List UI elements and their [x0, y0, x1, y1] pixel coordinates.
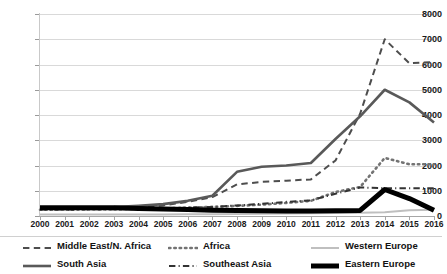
- x-axis-tick-mark: [40, 217, 41, 220]
- x-axis-tick-label: 2006: [175, 220, 201, 229]
- legend-swatch-icon: [310, 240, 340, 252]
- legend-item-southeast-asia[interactable]: Southeast Asia: [168, 256, 271, 272]
- x-axis-tick-mark: [336, 217, 337, 220]
- x-axis-tick-mark: [139, 217, 140, 220]
- legend-label: Western Europe: [345, 241, 418, 251]
- x-axis-tick-label: 2007: [199, 220, 225, 229]
- x-axis-tick-mark: [65, 217, 66, 220]
- x-axis-tick-mark: [89, 217, 90, 220]
- x-axis-tick-label: 2003: [101, 220, 127, 229]
- x-axis-tick-mark: [286, 217, 287, 220]
- series-line-eastern-europe: [40, 189, 434, 210]
- x-axis-tick-mark: [385, 217, 386, 220]
- legend-label: Middle East/N. Africa: [57, 241, 151, 251]
- x-axis-tick-label: 2014: [372, 220, 398, 229]
- x-axis-tick-label: 2012: [323, 220, 349, 229]
- legend-row: South AsiaSoutheast AsiaEastern Europe: [0, 256, 442, 272]
- x-axis-tick-mark: [262, 217, 263, 220]
- series-line-middle-east-n-africa: [40, 39, 434, 208]
- legend-label: Eastern Europe: [345, 259, 415, 269]
- legend-swatch-icon: [168, 258, 198, 270]
- x-axis-tick-mark: [409, 217, 410, 220]
- x-axis-tick-mark: [360, 217, 361, 220]
- x-axis-line: [39, 216, 435, 217]
- x-axis-tick-label: 2016: [421, 220, 447, 229]
- series-lines: [40, 14, 434, 216]
- x-axis-tick-label: 2009: [249, 220, 275, 229]
- legend-swatch-icon: [22, 258, 52, 270]
- legend-item-western-europe[interactable]: Western Europe: [310, 238, 418, 254]
- x-axis-tick-label: 2015: [396, 220, 422, 229]
- legend-item-africa[interactable]: Africa: [168, 238, 230, 254]
- legend-label: Southeast Asia: [203, 259, 271, 269]
- x-axis-tick-mark: [237, 217, 238, 220]
- legend-item-eastern-europe[interactable]: Eastern Europe: [310, 256, 415, 272]
- x-axis-tick-mark: [114, 217, 115, 220]
- legend-item-south-asia[interactable]: South Asia: [22, 256, 106, 272]
- legend-item-middle-east-n-africa[interactable]: Middle East/N. Africa: [22, 238, 151, 254]
- x-axis-tick-mark: [188, 217, 189, 220]
- legend-label: Africa: [203, 241, 230, 251]
- x-axis-tick-label: 2008: [224, 220, 250, 229]
- x-axis-tick-label: 2005: [150, 220, 176, 229]
- x-axis-tick-mark: [212, 217, 213, 220]
- x-axis-tick-mark: [434, 217, 435, 220]
- x-axis-tick-label: 2000: [27, 220, 53, 229]
- x-axis-tick-label: 2004: [126, 220, 152, 229]
- x-axis-tick-label: 2011: [298, 220, 324, 229]
- series-line-south-asia: [40, 90, 434, 208]
- series-line-africa: [40, 158, 434, 210]
- legend-swatch-icon: [168, 240, 198, 252]
- legend-row: Middle East/N. AfricaAfricaWestern Europ…: [0, 238, 442, 254]
- x-axis-tick-label: 2010: [273, 220, 299, 229]
- x-axis-tick-label: 2001: [52, 220, 78, 229]
- legend-label: South Asia: [57, 259, 106, 269]
- chart-legend: Middle East/N. AfricaAfricaWestern Europ…: [0, 236, 442, 274]
- legend-divider: [0, 236, 442, 237]
- plot-area: [40, 14, 434, 216]
- legend-swatch-icon: [22, 240, 52, 252]
- x-axis-tick-mark: [311, 217, 312, 220]
- x-axis-tick-label: 2013: [347, 220, 373, 229]
- legend-swatch-icon: [310, 258, 340, 270]
- x-axis-tick-mark: [163, 217, 164, 220]
- x-axis-tick-label: 2002: [76, 220, 102, 229]
